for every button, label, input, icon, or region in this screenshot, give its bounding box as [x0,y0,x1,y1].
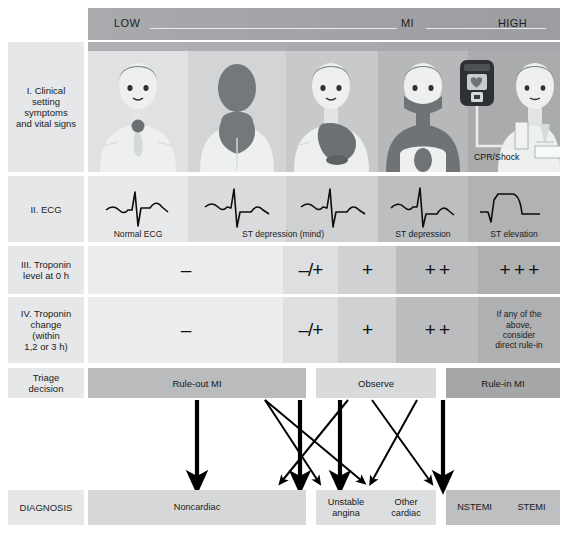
ecg-caption-st-elevation: ST elevation [468,229,560,239]
diagnosis-box-noncardiac[interactable]: Noncardiac [88,490,306,525]
ecg-caption-st-depression: ST depression [378,229,468,239]
troponin-change-cell-2: –/+ [283,297,338,363]
troponin-level-cell-2: –/+ [283,246,338,294]
arrow-observe-right-to-unstable-angina [282,400,348,481]
risk-label-high: HIGH [498,17,527,29]
risk-label-mi: MI [401,17,414,29]
triage-algorithm-figure: LOW MI HIGH I. Clinical setting symptoms… [0,0,568,539]
risk-scale-bar: LOW MI HIGH [88,8,560,40]
arrow-rulein-to-other-cardiac [372,400,417,481]
troponin-level-cell-5: + + + [478,246,560,294]
diagnosis-item-nstemi[interactable]: NSTEMI [446,502,503,513]
troponin-change-cell-3: + [338,297,396,363]
row-label-diagnosis: DIAGNOSIS [8,490,84,525]
arrow-observe-to-unstable-angina-diag [265,400,318,481]
ecg-row: Normal ECG ST depression (mind) ST depre… [88,176,560,242]
troponin-level-cell-4: + + [396,246,478,294]
risk-label-low: LOW [114,17,140,29]
triage-box-rule-out-mi[interactable]: Rule-out MI [88,368,306,398]
diagnosis-item-unstable-angina[interactable]: Unstable angina [316,497,376,518]
troponin-change-cell-1: – [88,297,283,363]
triage-box-observe[interactable]: Observe [316,368,436,398]
troponin-level-cell-1: – [88,246,283,294]
diagnosis-row: Noncardiac Unstable angina Other cardiac… [88,490,560,525]
diagnosis-item-other-cardiac[interactable]: Other cardiac [376,497,436,518]
troponin-change-note: If any of the above, consider direct rul… [478,297,560,363]
diagnosis-box-right: NSTEMI STEMI [446,490,560,525]
triage-decision-row: Rule-out MI Observe Rule-in MI [88,368,560,398]
troponin-level-cell-3: + [338,246,396,294]
row-label-ecg: II. ECG [8,176,84,242]
troponin-change-cell-4: + + [396,297,478,363]
cpr-shock-caption: CPR/Shock [474,152,519,162]
arrow-rulein-to-nstemi [372,400,430,481]
ecg-caption-normal: Normal ECG [88,229,188,239]
diagnosis-box-middle: Unstable angina Other cardiac [316,490,436,525]
row-label-triage: Triage decision [8,368,84,398]
troponin-level-row: – –/+ + + + + + + [88,246,560,294]
row-label-clinical: I. Clinical setting symptoms and vital s… [8,42,84,172]
row-label-troponin-level: III. Troponin level at 0 h [8,246,84,294]
diagnosis-item-stemi[interactable]: STEMI [503,502,560,513]
troponin-change-row: – –/+ + + + If any of the above, conside… [88,297,560,363]
ecg-caption-st-depression-mild: ST depression (mind) [188,229,378,239]
row-label-troponin-change: IV. Troponin change (within 1,2 or 3 h) [8,297,84,363]
arrow-observe-to-other-cardiac-diag [265,400,362,481]
triage-box-rule-in-mi[interactable]: Rule-in MI [446,368,560,398]
clinical-figures-row: CPR/Shock [88,42,560,172]
